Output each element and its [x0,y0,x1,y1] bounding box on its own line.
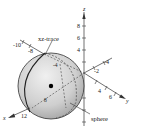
x-tick-neg8: -8 [28,48,33,54]
sphere-diagram: z 8 6 4 x -10 -8 -4 8 12 y -4 -2 4 6 xz-… [0,0,142,135]
z-tick-8: 8 [77,23,80,29]
y-axis-front [84,73,126,99]
x-axis-label: x [2,115,6,121]
x-tick-neg10: -10 [13,42,21,48]
z-tick-4: 4 [77,47,80,53]
x-tick-8: 8 [44,97,47,103]
z-axis-label: z [82,6,86,12]
z-axis [82,12,86,126]
x-tick-neg4: -4 [53,62,58,68]
xz-trace-label: xz-trace [38,35,59,42]
x-arrow-icon [8,114,15,118]
y-tick-4: 4 [98,88,101,94]
x-tick-12: 12 [21,113,27,119]
y-axis-label: y [125,98,129,104]
center-point [49,84,53,88]
y-tick-neg2: -2 [94,68,99,74]
y-tick-neg4: -4 [104,59,109,65]
z-arrow-icon [82,13,85,19]
y-arrow-icon [119,94,126,99]
sphere-label: sphere [91,115,108,122]
z-tick-6: 6 [77,35,80,41]
y-tick-6: 6 [109,94,112,100]
